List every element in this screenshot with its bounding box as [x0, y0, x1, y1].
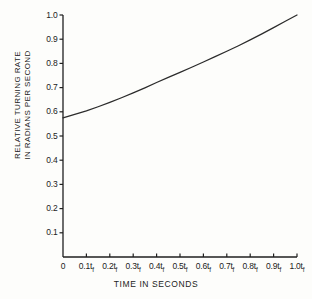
x-axis-title: TIME IN SECONDS — [0, 279, 312, 289]
axis-lines — [63, 15, 297, 257]
y-tick-label: 0.8 — [32, 59, 58, 68]
x-tick-label: 1.0tf — [280, 262, 312, 273]
plot-canvas — [0, 0, 312, 299]
y-axis-title: RELATIVE TURNING RATE IN RADIANS PER SEC… — [13, 30, 33, 180]
y-tick-label: 0.4 — [32, 156, 58, 165]
y-tick-label: 1.0 — [32, 11, 58, 20]
chart-figure: 0.10.20.30.40.50.60.70.80.91.0 00.1tf0.2… — [0, 0, 312, 299]
y-tick-label: 0.7 — [32, 83, 58, 92]
y-tick-label: 0.2 — [32, 204, 58, 213]
y-tick-label: 0.5 — [32, 132, 58, 141]
y-axis-title-line-1: RELATIVE TURNING RATE — [13, 30, 23, 180]
axis-tick-marks — [60, 15, 298, 257]
y-tick-label: 0.9 — [32, 35, 58, 44]
data-series-group — [63, 15, 297, 118]
y-tick-label: 0.1 — [32, 228, 58, 237]
y-tick-label: 0.3 — [32, 180, 58, 189]
y-axis-title-line-2: IN RADIANS PER SECOND — [23, 30, 33, 180]
series-line-0 — [63, 15, 297, 118]
x-tick-subscript: f — [303, 266, 305, 273]
y-tick-label: 0.6 — [32, 107, 58, 116]
